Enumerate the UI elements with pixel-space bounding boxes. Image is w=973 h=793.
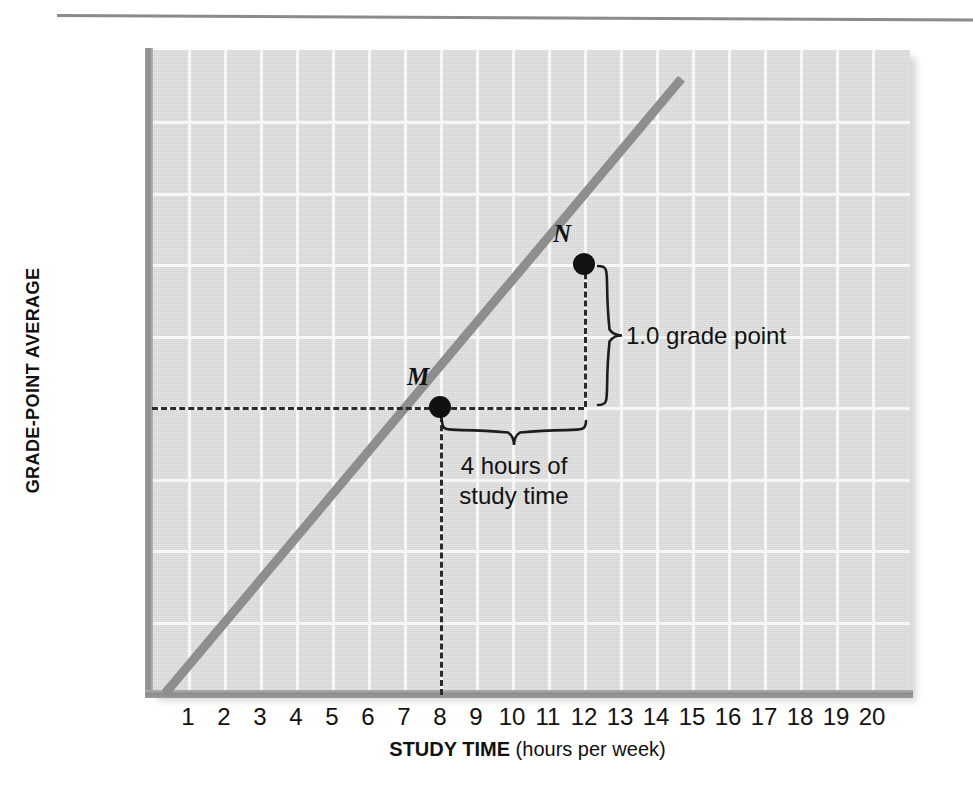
x-axis-title: STUDY TIME (hours per week): [145, 738, 910, 761]
x-axis-tick-16: 16: [715, 703, 742, 731]
y-axis-title: GRADE-POINT AVERAGE: [23, 216, 44, 546]
dashed-line-from-point-n: [584, 264, 587, 407]
x-axis-tick-1: 1: [181, 703, 194, 731]
x-axis-tick-11: 11: [536, 703, 561, 731]
x-axis-tick-17: 17: [751, 703, 778, 731]
x-axis-title-strong: STUDY TIME: [389, 738, 510, 760]
dashed-line-from-point-m: [440, 407, 443, 695]
x-axis-tick-6: 6: [361, 703, 374, 731]
annotation-rise-label: 1.0 grade point: [626, 321, 786, 351]
x-axis-tick-19: 19: [823, 703, 850, 731]
brace-rise: [596, 266, 622, 405]
x-axis-tick-14: 14: [643, 703, 670, 731]
brace-run: [442, 419, 586, 445]
plot-overlay: MN1.0 grade point4 hours ofstudy time: [0, 0, 973, 793]
x-axis-tick-7: 7: [397, 703, 410, 731]
annotation-run-line-1: 4 hours of: [459, 451, 568, 481]
data-point-m: [429, 396, 451, 418]
data-point-n: [573, 253, 595, 275]
x-axis-tick-8: 8: [433, 703, 446, 731]
x-axis-tick-20: 20: [859, 703, 886, 731]
x-axis-title-rest: (hours per week): [510, 738, 666, 760]
chart-figure: 4.0(= A)3.53.0(= B)2.52.0(= C)1.51.0(= D…: [0, 0, 973, 793]
x-axis-tick-2: 2: [217, 703, 230, 731]
x-axis-tick-5: 5: [325, 703, 338, 731]
annotation-run-label: 4 hours ofstudy time: [459, 451, 568, 511]
x-axis-tick-18: 18: [787, 703, 814, 731]
x-axis-tick-4: 4: [289, 703, 302, 731]
data-point-label-m: M: [407, 363, 429, 391]
data-point-label-n: N: [553, 220, 571, 248]
x-axis-tick-10: 10: [499, 703, 526, 731]
dashed-line-gpa-2-0: [152, 407, 584, 410]
x-axis-tick-9: 9: [469, 703, 482, 731]
x-axis-tick-15: 15: [679, 703, 706, 731]
x-axis-tick-3: 3: [253, 703, 266, 731]
annotation-run-line-2: study time: [459, 481, 568, 511]
x-axis-tick-13: 13: [607, 703, 634, 731]
x-axis-tick-12: 12: [571, 703, 598, 731]
